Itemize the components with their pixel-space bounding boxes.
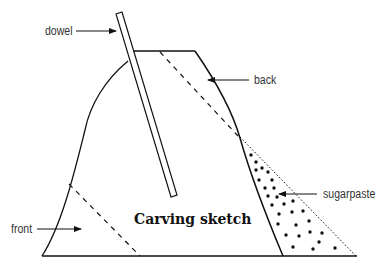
- front-carving-dashed-line: [69, 184, 140, 256]
- diagram-drawing: [0, 0, 389, 273]
- diagram-title: Carving sketch: [134, 212, 252, 226]
- dowel-label: dowel: [45, 25, 73, 37]
- carving-sketch-diagram: dowel back front sugarpaste Carving sket…: [0, 0, 389, 273]
- sugarpaste-dots: [249, 153, 336, 250]
- sugarpaste-label: sugarpaste: [323, 188, 375, 200]
- front-label: front: [11, 223, 32, 235]
- back-carving-dashed-line: [160, 52, 238, 136]
- dowel-rod: [116, 12, 177, 197]
- front-outline-curve: [42, 61, 128, 256]
- back-label: back: [254, 74, 276, 86]
